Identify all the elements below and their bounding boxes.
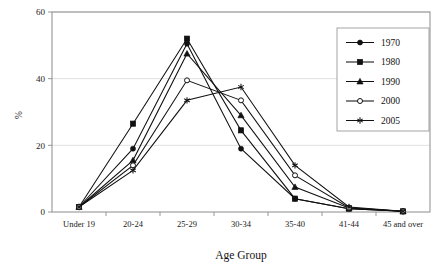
y-axis-label-text: %	[14, 111, 24, 119]
legend-label: 2000	[381, 96, 400, 106]
y-tick-label: 0	[41, 207, 46, 217]
x-category-label: 20-24	[123, 219, 144, 229]
data-point-marker	[184, 36, 189, 41]
x-category-label: Under 19	[63, 219, 95, 229]
data-point-marker	[292, 196, 297, 201]
data-point-marker	[358, 40, 363, 45]
x-category-label: 30-34	[231, 219, 252, 229]
y-axis-label: %	[14, 111, 24, 119]
legend-label: 1970	[381, 38, 400, 48]
data-point-marker	[293, 173, 298, 178]
legend-label: 1990	[381, 77, 400, 87]
x-category-label: 35-40	[285, 219, 305, 229]
x-category-label: 41-44	[339, 219, 360, 229]
data-point-marker	[185, 78, 190, 83]
y-tick-label: 40	[36, 74, 46, 84]
x-category-label: 45 and over	[383, 219, 423, 229]
data-point-marker	[238, 128, 243, 133]
data-point-marker	[239, 98, 244, 103]
data-point-marker	[358, 99, 363, 104]
chart-legend: 19701980199020002005	[337, 28, 429, 131]
y-tick-label: 60	[36, 7, 46, 17]
data-point-marker	[357, 59, 362, 64]
line-chart: 0204060 Under 1920-2425-2930-3435-4041-4…	[0, 0, 441, 271]
data-point-marker	[239, 146, 244, 151]
data-point-marker	[131, 146, 136, 151]
y-tick-label: 20	[36, 141, 46, 151]
chart-container: 0204060 Under 1920-2425-2930-3435-4041-4…	[0, 0, 441, 271]
x-axis-title: Age Group	[215, 249, 267, 262]
legend-label: 2005	[381, 116, 400, 126]
data-point-marker	[130, 121, 135, 126]
legend-label: 1980	[381, 57, 400, 67]
x-category-label: 25-29	[177, 219, 197, 229]
data-point-marker	[131, 163, 136, 168]
